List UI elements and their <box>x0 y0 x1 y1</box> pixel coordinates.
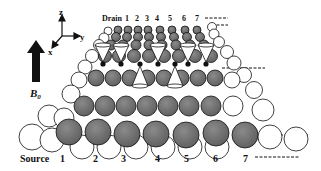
drain-label-4: 4 <box>155 14 159 23</box>
drain-label-5: 5 <box>168 14 172 23</box>
source-label-7: 7 <box>243 153 248 164</box>
source-label-1: 1 <box>60 153 65 164</box>
source-label-6: 6 <box>213 153 218 164</box>
source-title: Source <box>20 153 50 164</box>
field-label: B0 <box>29 87 41 101</box>
axis-z-label: z <box>59 7 63 17</box>
magnetic-field-arrow-icon <box>27 40 45 82</box>
diagram-canvas: z y x B0 Drain 1 2 3 4 5 6 7 <box>0 0 321 171</box>
axes-icon <box>52 15 80 48</box>
drain-label-7: 7 <box>195 14 199 23</box>
sphere-lattice-diagram: z y x B0 Drain 1 2 3 4 5 6 7 <box>0 0 321 171</box>
source-label-5: 5 <box>184 153 189 164</box>
axis-x-label: x <box>48 47 53 57</box>
source-label-3: 3 <box>121 153 126 164</box>
source-label-2: 2 <box>93 153 98 164</box>
drain-labels: Drain 1 2 3 4 5 6 7 <box>102 14 199 23</box>
drain-label-6: 6 <box>182 14 186 23</box>
drain-label-3: 3 <box>145 14 149 23</box>
drain-label-2: 2 <box>135 14 139 23</box>
axis-y-label: y <box>80 32 85 42</box>
drain-label-1: 1 <box>125 14 129 23</box>
drain-title: Drain <box>102 14 123 23</box>
source-label-4: 4 <box>155 153 160 164</box>
